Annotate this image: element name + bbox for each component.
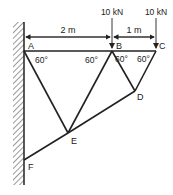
node-label-b: B: [116, 41, 122, 51]
load-label-c: 10 kN: [145, 7, 167, 17]
node-label-c: C: [159, 41, 166, 51]
angle-label-b-left: 60°: [85, 55, 98, 65]
angle-label-c: 60°: [137, 54, 150, 64]
node-label-d: D: [137, 92, 144, 102]
truss-members: [24, 51, 156, 160]
dimension-label-bc: 1 m: [126, 25, 141, 35]
node-label-e: E: [71, 136, 77, 146]
wall-support: [13, 22, 24, 185]
load-label-b: 10 kN: [101, 7, 123, 17]
member-ef: [24, 133, 68, 160]
node-label-a: A: [28, 41, 34, 51]
angle-label-b-right: 60°: [115, 54, 128, 64]
dimension-label-ab: 2 m: [60, 25, 75, 35]
truss-diagram: 2 m 1 m 10 kN 10 kN A B C D E F 60° 60° …: [0, 0, 173, 195]
truss-svg: 2 m 1 m 10 kN 10 kN A B C D E F 60° 60° …: [0, 0, 173, 195]
member-de: [68, 91, 135, 133]
node-label-f: F: [28, 162, 34, 172]
angle-label-a: 60°: [35, 55, 48, 65]
